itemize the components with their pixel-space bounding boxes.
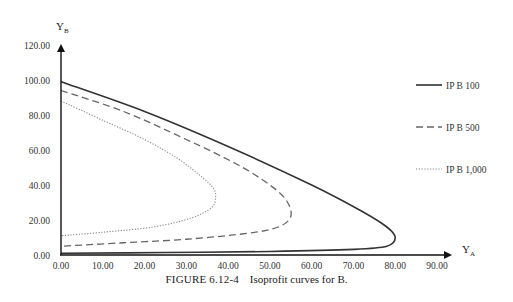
x-tick-label: 20.00 [134, 261, 156, 270]
legend-item: IP B 100 [416, 81, 480, 91]
curve-ip-b-100 [61, 82, 395, 254]
y-axis-ticks: 0.0020.0040.0060.0080.00100.00120.00 [24, 41, 50, 261]
curve-ip-b-1-000 [61, 101, 216, 236]
x-tick-label: 10.00 [92, 261, 114, 270]
legend-label: IP B 1,000 [446, 165, 487, 175]
y-tick-label: 0.00 [33, 251, 50, 261]
legend-item: IP B 500 [416, 123, 480, 133]
figure-title: Isoprofit curves for B. [250, 273, 348, 285]
y-tick-label: 80.00 [29, 111, 51, 121]
x-tick-label: 70.00 [343, 261, 365, 270]
legend-label: IP B 500 [446, 123, 480, 133]
x-tick-label: 80.00 [385, 261, 407, 270]
legend: IP B 100IP B 500IP B 1,000 [416, 81, 487, 175]
y-tick-label: 40.00 [29, 181, 51, 191]
curve-ip-b-500 [61, 91, 291, 247]
plot-curves [61, 82, 395, 254]
x-axis-label: YA [462, 243, 475, 258]
legend-item: IP B 1,000 [416, 165, 487, 175]
x-tick-label: 60.00 [301, 261, 323, 270]
x-tick-label: 40.00 [217, 261, 239, 270]
y-tick-label: 60.00 [29, 146, 51, 156]
x-axis-ticks: 0.0010.0020.0030.0040.0050.0060.0070.008… [53, 261, 448, 270]
x-tick-label: 90.00 [426, 261, 448, 270]
figure-number: FIGURE 6.12-4 [165, 273, 239, 285]
y-tick-label: 100.00 [24, 76, 50, 86]
isoprofit-chart: 0.0020.0040.0060.0080.00100.00120.00 0.0… [0, 0, 513, 270]
figure-caption: FIGURE 6.12-4 Isoprofit curves for B. [0, 273, 513, 285]
y-axis-label: YB [56, 20, 69, 35]
x-tick-label: 0.00 [53, 261, 70, 270]
y-tick-label: 120.00 [24, 41, 50, 51]
legend-label: IP B 100 [446, 81, 480, 91]
x-tick-label: 50.00 [259, 261, 281, 270]
x-tick-label: 30.00 [176, 261, 198, 270]
y-tick-label: 20.00 [29, 216, 51, 226]
